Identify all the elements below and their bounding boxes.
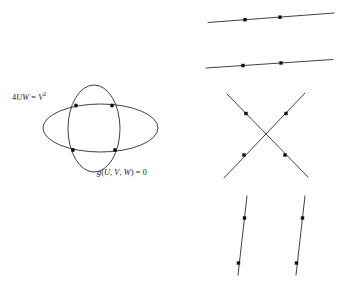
panel-two-ellipses — [43, 85, 158, 172]
intersection-point — [242, 153, 245, 156]
vertical-ellipse — [68, 85, 120, 172]
intersection-point — [71, 148, 75, 152]
intersection-point — [243, 18, 246, 21]
horizontal-ellipse — [43, 104, 158, 152]
label-cubic-comma2: , — [119, 168, 121, 177]
intersection-point — [284, 112, 287, 115]
label-cubic-equation: g(U, V, W)=0 — [97, 169, 147, 177]
label-cubic-comma1: , — [110, 168, 112, 177]
intersection-point — [244, 112, 247, 115]
intersection-point — [301, 216, 304, 219]
panel-two-crossing-lines — [224, 93, 308, 178]
label-quadric-vars: UW — [16, 93, 29, 102]
intersection-point — [243, 216, 246, 219]
panel-two-near-parallel-lines — [206, 13, 334, 68]
intersection-point — [237, 261, 240, 264]
label-cubic-close-paren: ) — [131, 168, 134, 177]
crossing-line-up-right — [224, 93, 305, 178]
intersection-point — [283, 153, 286, 156]
panel-two-near-vertical-lines — [237, 196, 305, 275]
intersection-point — [74, 104, 78, 108]
label-cubic-relation: = — [136, 168, 141, 177]
intersection-point — [241, 64, 244, 67]
label-quadric-exponent: 2 — [43, 91, 46, 97]
intersection-point — [295, 261, 298, 264]
crossing-line-down-right — [227, 94, 308, 177]
label-cubic-arg3: W — [124, 168, 131, 177]
parallel-line-lower — [206, 60, 333, 69]
label-quadric-relation: = — [31, 93, 36, 102]
label-quadric-equation: 4UW=V2 — [12, 94, 46, 102]
figure-canvas — [0, 0, 337, 282]
parallel-line-upper — [208, 13, 334, 23]
intersection-point — [110, 104, 114, 108]
figure-root: 4UW=V2 g(U, V, W)=0 — [0, 0, 337, 282]
label-cubic-value: 0 — [143, 168, 147, 177]
intersection-point — [278, 16, 281, 19]
intersection-point — [279, 61, 282, 64]
intersection-point — [113, 148, 117, 152]
